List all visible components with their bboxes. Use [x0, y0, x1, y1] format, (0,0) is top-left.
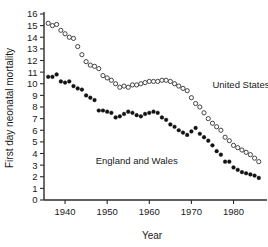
data-point: [177, 84, 181, 88]
data-point: [227, 139, 231, 143]
data-point: [156, 111, 160, 115]
data-point: [55, 73, 59, 77]
data-point: [227, 160, 231, 164]
y-axis-title: First day neonatal mortality: [4, 48, 15, 168]
data-point: [160, 116, 164, 120]
data-point: [152, 110, 156, 114]
chart-container: 012345678910111213141516 194019501960197…: [0, 0, 268, 247]
data-point: [118, 85, 122, 89]
data-point: [50, 24, 54, 28]
x-tick-label: 1980: [223, 206, 244, 217]
data-point: [236, 146, 240, 150]
data-point: [252, 156, 256, 160]
series-labels-group: United StatesEngland and Wales: [96, 79, 268, 166]
data-point: [72, 84, 76, 88]
x-axis-title: Year: [142, 230, 163, 241]
y-tick-label: 6: [32, 125, 37, 136]
data-point: [110, 111, 114, 115]
data-point: [160, 78, 164, 82]
data-point: [253, 174, 257, 178]
data-point: [232, 166, 236, 170]
data-point: [63, 81, 67, 85]
data-point: [71, 36, 75, 40]
data-point: [76, 87, 80, 91]
y-tick-label: 14: [27, 32, 38, 43]
data-point: [63, 32, 67, 36]
y-tick-label: 15: [27, 20, 38, 31]
data-point: [97, 67, 101, 71]
data-point: [164, 78, 168, 82]
data-point: [189, 96, 193, 100]
data-point: [219, 153, 223, 157]
data-point: [164, 118, 168, 122]
data-point: [114, 82, 118, 86]
data-point: [248, 153, 252, 157]
y-tick-label: 12: [27, 55, 38, 66]
data-point: [118, 114, 122, 118]
data-point: [185, 89, 189, 93]
data-point: [249, 173, 253, 177]
data-point: [46, 21, 50, 25]
data-point: [223, 160, 227, 164]
data-point: [156, 79, 160, 83]
data-point: [59, 80, 63, 84]
y-tick-label: 1: [32, 183, 37, 194]
data-point: [185, 133, 189, 137]
data-point: [55, 22, 59, 26]
data-point: [168, 79, 172, 83]
data-point: [76, 44, 80, 48]
x-tick-label: 1950: [97, 206, 118, 217]
data-point: [131, 111, 135, 115]
data-point: [93, 98, 97, 102]
data-point: [172, 82, 176, 86]
data-point: [126, 110, 130, 114]
data-point: [181, 131, 185, 135]
y-tick-label: 4: [32, 148, 37, 159]
data-point: [177, 128, 181, 132]
data-point: [198, 132, 202, 136]
data-point: [210, 121, 214, 125]
data-point: [206, 117, 210, 121]
data-point: [80, 88, 84, 92]
data-point: [105, 110, 109, 114]
data-point: [105, 76, 109, 80]
y-tick-label: 0: [32, 194, 37, 205]
data-point: [151, 79, 155, 83]
y-tick-label: 5: [32, 136, 37, 147]
data-point: [143, 80, 147, 84]
y-tick-label: 10: [27, 78, 38, 89]
data-point: [181, 86, 185, 90]
data-point: [84, 60, 88, 64]
data-point: [122, 112, 126, 116]
y-tick-label: 11: [28, 67, 38, 78]
x-tick-label: 1970: [181, 206, 202, 217]
y-tick-label: 3: [32, 160, 37, 171]
series-united-states: [46, 21, 261, 164]
data-point: [206, 139, 210, 143]
series-label-united-states: United States: [212, 79, 268, 90]
y-tick-label: 13: [27, 43, 38, 54]
data-point: [88, 63, 92, 67]
data-point: [194, 101, 198, 105]
data-point: [215, 149, 219, 153]
data-point: [257, 160, 261, 164]
data-point: [173, 125, 177, 129]
data-point: [147, 79, 151, 83]
data-point: [190, 130, 194, 134]
data-point: [240, 170, 244, 174]
data-point: [139, 114, 143, 118]
data-point: [202, 135, 206, 139]
data-point: [126, 85, 130, 89]
x-axis: 19401950196019701980: [44, 200, 267, 217]
data-point: [223, 135, 227, 139]
data-point: [194, 126, 198, 130]
data-point: [92, 64, 96, 68]
data-point: [211, 144, 215, 148]
data-point: [198, 105, 202, 109]
x-tick-label: 1940: [54, 206, 75, 217]
data-point: [84, 94, 88, 98]
y-tick-label: 9: [32, 90, 37, 101]
x-tick-label: 1960: [139, 206, 160, 217]
data-point: [109, 78, 113, 82]
data-point: [244, 171, 248, 175]
